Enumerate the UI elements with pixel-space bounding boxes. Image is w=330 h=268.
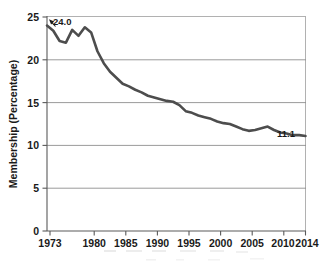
start-value-callout: 24.0 bbox=[49, 16, 72, 27]
y-tick-label-10: 10 bbox=[27, 139, 39, 151]
data-series-line bbox=[47, 26, 306, 136]
x-tick-marks bbox=[50, 231, 306, 236]
y-tick-label-15: 15 bbox=[27, 97, 39, 109]
start-value-label: 24.0 bbox=[53, 16, 72, 27]
x-tick-label-1985: 1985 bbox=[114, 237, 138, 249]
x-tick-label-2010: 2010 bbox=[271, 237, 295, 249]
y-tick-label-0: 0 bbox=[33, 225, 39, 237]
y-tick-label-5: 5 bbox=[33, 182, 39, 194]
x-tick-label-2005: 2005 bbox=[241, 237, 265, 249]
y-tick-marks bbox=[43, 17, 48, 231]
x-tick-label-2000: 2000 bbox=[209, 237, 233, 249]
y-axis-title: Membership (Percentage) bbox=[7, 60, 19, 188]
x-tick-label-2014: 2014 bbox=[295, 237, 319, 249]
scan-artifacts bbox=[104, 250, 264, 261]
x-tick-label-1973: 1973 bbox=[38, 237, 62, 249]
gridlines bbox=[47, 60, 306, 188]
x-tick-label-1990: 1990 bbox=[146, 237, 170, 249]
y-tick-label-20: 20 bbox=[27, 54, 39, 66]
chart-figure: 0 5 10 15 20 25 1973 1980 1985 1990 1995… bbox=[0, 0, 330, 268]
x-tick-label-1980: 1980 bbox=[83, 237, 107, 249]
end-value-label: 11.1 bbox=[277, 128, 296, 139]
line-chart: 0 5 10 15 20 25 1973 1980 1985 1990 1995… bbox=[0, 0, 330, 268]
x-tick-label-1995: 1995 bbox=[177, 237, 201, 249]
y-tick-label-25: 25 bbox=[27, 11, 39, 23]
